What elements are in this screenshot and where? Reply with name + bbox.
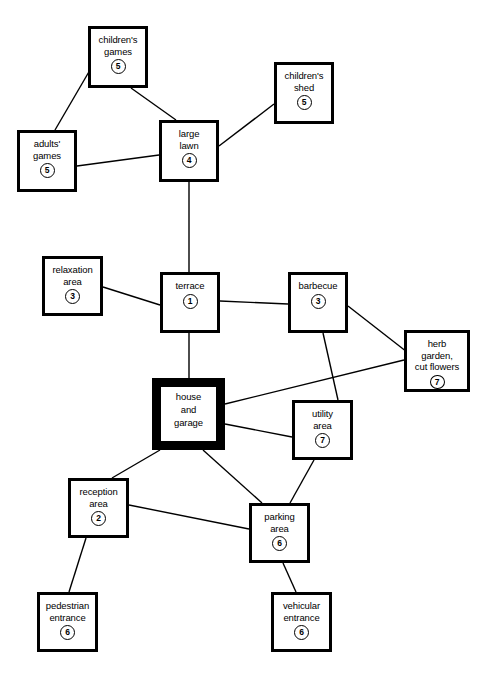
node-house-and-garage[interactable]: house and garage <box>152 378 225 450</box>
node-label-adults-games: adults' games <box>33 138 61 161</box>
node-large-lawn[interactable]: large lawn4 <box>159 120 219 182</box>
node-number-parking-area: 6 <box>272 536 287 551</box>
node-label-childrens-games: children's games <box>99 34 138 57</box>
node-number-herb-garden: 7 <box>430 375 445 390</box>
node-label-herb-garden: herb garden, cut flowers <box>415 338 459 373</box>
node-pedestrian-entrance[interactable]: pedestrian entrance6 <box>37 592 98 652</box>
node-barbecue[interactable]: barbecue3 <box>288 272 348 333</box>
node-label-reception-area: reception area <box>79 486 117 509</box>
node-reception-area[interactable]: reception area2 <box>68 478 129 538</box>
node-herb-garden[interactable]: herb garden, cut flowers7 <box>404 330 470 392</box>
node-vehicular-entrance[interactable]: vehicular entrance6 <box>271 592 332 652</box>
node-number-reception-area: 2 <box>91 511 106 526</box>
node-layer: children's games5children's shed5adults'… <box>0 0 485 689</box>
node-label-childrens-shed: children's shed <box>285 70 324 93</box>
node-terrace[interactable]: terrace1 <box>160 272 220 333</box>
garden-layout-diagram: children's games5children's shed5adults'… <box>0 0 485 689</box>
node-parking-area[interactable]: parking area6 <box>249 503 310 563</box>
node-label-pedestrian-entrance: pedestrian entrance <box>46 600 89 623</box>
node-childrens-games[interactable]: children's games5 <box>88 26 148 88</box>
node-utility-area[interactable]: utility area7 <box>292 400 353 460</box>
node-relaxation-area[interactable]: relaxation area3 <box>42 256 103 316</box>
node-number-childrens-shed: 5 <box>297 95 312 110</box>
node-number-childrens-games: 5 <box>111 59 126 74</box>
node-number-pedestrian-entrance: 6 <box>60 625 75 640</box>
node-label-utility-area: utility area <box>312 408 333 431</box>
node-number-utility-area: 7 <box>315 433 330 448</box>
node-number-relaxation-area: 3 <box>65 289 80 304</box>
node-number-large-lawn: 4 <box>182 153 197 168</box>
node-label-terrace: terrace <box>176 280 205 292</box>
node-label-vehicular-entrance: vehicular entrance <box>283 600 320 623</box>
node-childrens-shed[interactable]: children's shed5 <box>274 62 334 124</box>
node-number-barbecue: 3 <box>311 294 326 309</box>
node-label-relaxation-area: relaxation area <box>52 264 92 287</box>
node-number-adults-games: 5 <box>40 163 55 178</box>
node-number-terrace: 1 <box>183 294 198 309</box>
node-label-parking-area: parking area <box>264 511 294 534</box>
node-label-barbecue: barbecue <box>299 280 338 292</box>
node-number-vehicular-entrance: 6 <box>294 625 309 640</box>
node-adults-games[interactable]: adults' games5 <box>17 130 77 192</box>
node-label-house-and-garage: house and garage <box>174 390 203 429</box>
node-label-large-lawn: large lawn <box>179 128 200 151</box>
